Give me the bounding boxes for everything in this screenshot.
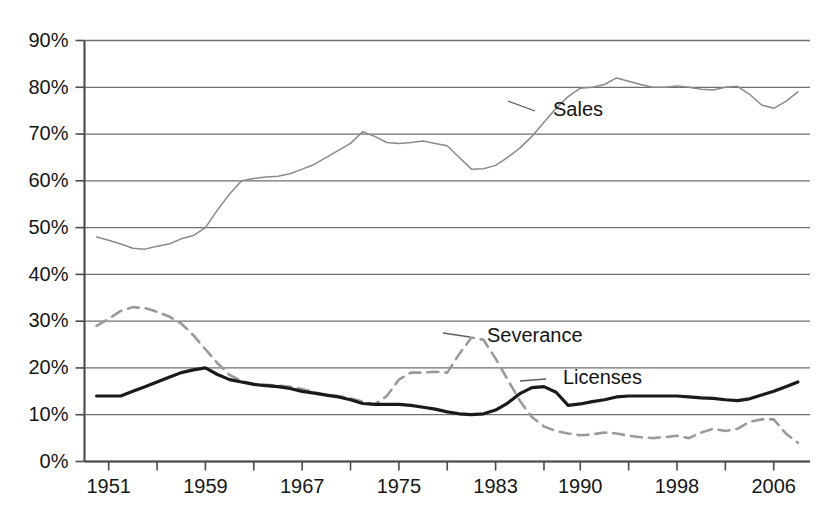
series-line-sales <box>97 78 798 249</box>
x-tick-label: 1959 <box>183 475 228 497</box>
line-chart: 0%10%20%30%40%50%60%70%80%90% 1951195919… <box>0 0 834 524</box>
series-label-severance: Severance <box>487 324 583 346</box>
y-tick-label: 60% <box>28 169 68 191</box>
series-line-licenses <box>97 368 798 415</box>
x-tick-label: 1951 <box>86 475 131 497</box>
y-tick-label: 70% <box>28 122 68 144</box>
chart-canvas: 0%10%20%30%40%50%60%70%80%90% 1951195919… <box>0 0 834 524</box>
leader-line-severance <box>443 333 470 337</box>
y-tick-label: 20% <box>28 356 68 378</box>
y-axis-labels: 0%10%20%30%40%50%60%70%80%90% <box>28 29 68 472</box>
series-line-severance <box>97 307 798 443</box>
y-tick-label: 90% <box>28 29 68 51</box>
x-tick-label: 1967 <box>280 475 325 497</box>
y-tick-label: 10% <box>28 403 68 425</box>
y-axis-ticks <box>76 41 85 462</box>
y-tick-label: 80% <box>28 76 68 98</box>
leader-line-licenses <box>520 379 546 381</box>
x-axis-labels: 19511959196719751983199019982006 <box>86 475 796 497</box>
x-tick-label: 1983 <box>473 475 518 497</box>
x-tick-label: 1990 <box>558 475 603 497</box>
x-tick-label: 2006 <box>751 475 796 497</box>
y-tick-label: 0% <box>40 450 69 472</box>
series-label-licenses: Licenses <box>563 366 642 388</box>
y-tick-label: 30% <box>28 309 68 331</box>
x-axis-ticks <box>109 462 774 471</box>
series-lines <box>97 78 798 443</box>
series-annotations: SalesSeveranceLicenses <box>443 98 642 388</box>
x-tick-label: 1998 <box>655 475 700 497</box>
y-tick-label: 40% <box>28 263 68 285</box>
leader-line-sales <box>508 101 535 111</box>
y-tick-label: 50% <box>28 216 68 238</box>
x-tick-label: 1975 <box>377 475 422 497</box>
series-label-sales: Sales <box>553 98 603 120</box>
